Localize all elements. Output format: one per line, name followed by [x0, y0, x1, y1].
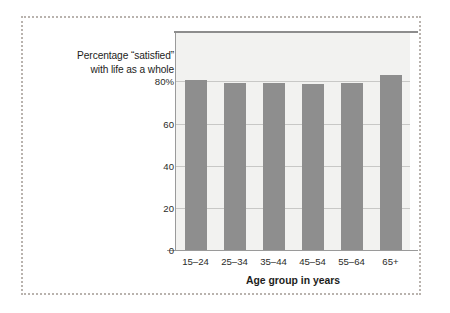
gridline-40 — [176, 166, 410, 167]
bar — [302, 84, 324, 250]
x-axis-tick-labels: 15–2425–3435–4445–5455–6465+ — [176, 256, 410, 270]
gridline-80 — [176, 81, 410, 82]
bar — [224, 83, 246, 250]
bar — [263, 83, 285, 250]
bar — [341, 83, 363, 250]
y-axis-tick-labels: 020406080% — [136, 33, 174, 251]
x-tick-label: 65+ — [368, 256, 414, 267]
chart-figure: Percentage “satisfied” with life as a wh… — [0, 0, 450, 313]
bar — [185, 80, 207, 250]
y-tick-label: 60 — [140, 118, 174, 129]
y-tick-label: 40 — [140, 160, 174, 171]
x-axis-line — [167, 250, 418, 251]
y-tick-label: 20 — [140, 202, 174, 213]
bar — [380, 75, 402, 250]
y-tick-label: 0 — [140, 245, 174, 256]
plot-area — [176, 33, 410, 250]
x-axis-title: Age group in years — [176, 275, 410, 286]
y-tick-label: 80% — [140, 76, 174, 87]
gridline-60 — [176, 124, 410, 125]
gridline-20 — [176, 208, 410, 209]
